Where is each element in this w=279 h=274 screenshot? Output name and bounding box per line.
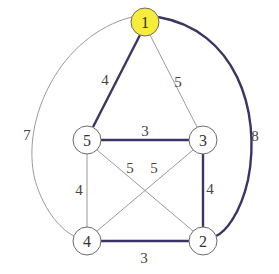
node-2: 2 — [189, 227, 217, 255]
node-1-label: 1 — [141, 14, 149, 31]
weight-label-1-5: 4 — [101, 72, 109, 88]
weight-label-3-2: 4 — [206, 181, 214, 197]
weight-label-1-3: 5 — [174, 74, 182, 90]
node-5: 5 — [73, 126, 101, 154]
node-3: 3 — [189, 126, 217, 154]
node-4-label: 4 — [83, 233, 91, 250]
weight-label-1-2: 8 — [251, 128, 259, 144]
node-2-label: 2 — [199, 233, 207, 250]
weight-label-5-3: 3 — [141, 123, 149, 139]
node-4: 4 — [73, 227, 101, 255]
weight-label-5-4: 4 — [75, 182, 83, 198]
weight-label-5-2: 5 — [126, 160, 134, 176]
weight-label-1-4: 7 — [23, 127, 31, 143]
node-1: 1 — [131, 8, 159, 36]
weight-label-3-4: 5 — [150, 160, 158, 176]
node-3-label: 3 — [199, 132, 207, 149]
weighted-graph: 4 5 7 8 3 4 5 5 4 3 1 2 3 4 5 — [0, 0, 279, 274]
weight-label-4-2: 3 — [140, 250, 148, 266]
edge-1-5 — [93, 35, 140, 127]
node-5-label: 5 — [83, 132, 91, 149]
